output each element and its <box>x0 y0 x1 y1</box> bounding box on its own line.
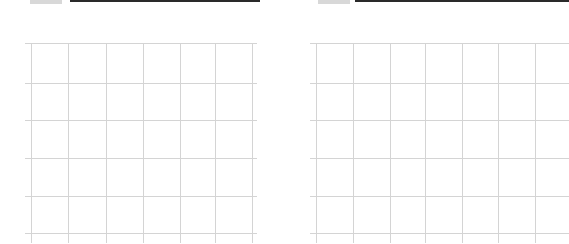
right-heading-underline <box>355 0 569 2</box>
right-grid <box>310 43 569 243</box>
left-heading-underline <box>70 0 260 2</box>
right-grid-lines <box>310 43 569 243</box>
left-grid-lines <box>25 43 257 243</box>
right-heading-label <box>318 0 350 4</box>
left-grid <box>25 43 257 243</box>
left-heading-label <box>30 0 62 4</box>
